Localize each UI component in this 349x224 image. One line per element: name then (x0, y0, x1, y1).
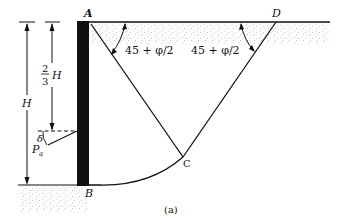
point-label-D: D (271, 7, 281, 20)
point-label-B: B (84, 187, 93, 200)
arrowhead-H-top (25, 23, 30, 31)
figure-caption: (a) (164, 204, 178, 215)
angle-label-left: 45 + φ/2 (125, 44, 174, 57)
arrowhead-2-3H-top (50, 23, 55, 31)
dimension-label-H: H (21, 97, 32, 110)
point-label-A: A (83, 7, 93, 20)
angle-label-right: 45 + φ/2 (191, 44, 240, 57)
retaining-wall (77, 21, 89, 186)
force-label-subscript-a: a (39, 150, 43, 158)
delta-angle-arc (43, 131, 47, 145)
fraction-variable-H: H (51, 69, 62, 82)
retaining-wall-diagram: A D C B 45 + φ/2 45 + φ/2 H 2 3 H δ P a … (0, 0, 349, 224)
arrowhead-H-bottom (25, 177, 30, 185)
arrowhead-2-3H-bottom (50, 123, 55, 131)
fraction-numerator: 2 (42, 63, 48, 74)
arrowhead-left-bottom (111, 48, 117, 55)
foundation-soil-hatch (20, 186, 88, 212)
force-Pa-line (48, 131, 77, 145)
point-label-C: C (183, 158, 191, 169)
failure-curve-BC (89, 157, 183, 185)
fraction-denominator: 3 (42, 76, 48, 87)
